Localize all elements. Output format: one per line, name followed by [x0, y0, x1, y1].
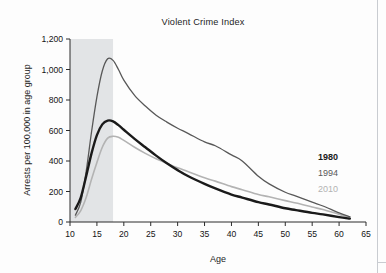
legend-item-2010: 2010	[318, 184, 338, 194]
series-line-1980	[75, 120, 349, 218]
x-tick-label: 55	[307, 229, 317, 239]
x-tick-label: 40	[227, 229, 237, 239]
y-tick-label: 200	[49, 187, 64, 197]
x-tick-label: 20	[119, 229, 129, 239]
legend-item-1980: 1980	[318, 152, 338, 162]
chart-title: Violent Crime Index	[162, 17, 245, 27]
x-tick-label: 30	[173, 229, 183, 239]
x-axis-ticks: 101520253035404550556065	[65, 222, 371, 239]
series-line-2010	[75, 136, 349, 217]
x-tick-label: 50	[280, 229, 290, 239]
x-tick-label: 60	[334, 229, 344, 239]
y-axis-label: Arrests per 100,000 in age group	[22, 64, 32, 196]
y-tick-label: 800	[49, 95, 64, 105]
violent-crime-index-chart: Violent Crime Index 02004006008001,0001,…	[0, 0, 386, 273]
x-tick-label: 35	[200, 229, 210, 239]
y-tick-label: 1,000	[41, 65, 63, 75]
x-axis-label: Age	[210, 254, 226, 264]
y-tick-label: 1,200	[41, 34, 63, 44]
y-axis-ticks: 02004006008001,0001,200	[41, 34, 70, 227]
x-tick-label: 15	[92, 229, 102, 239]
x-tick-label: 65	[361, 229, 371, 239]
y-tick-label: 400	[49, 156, 64, 166]
legend-item-1994: 1994	[318, 168, 338, 178]
chart-figure: Violent Crime Index 02004006008001,0001,…	[0, 0, 386, 273]
y-tick-label: 0	[58, 217, 63, 227]
x-tick-label: 10	[65, 229, 75, 239]
y-tick-label: 600	[49, 126, 64, 136]
x-tick-label: 25	[146, 229, 156, 239]
x-tick-label: 45	[254, 229, 264, 239]
